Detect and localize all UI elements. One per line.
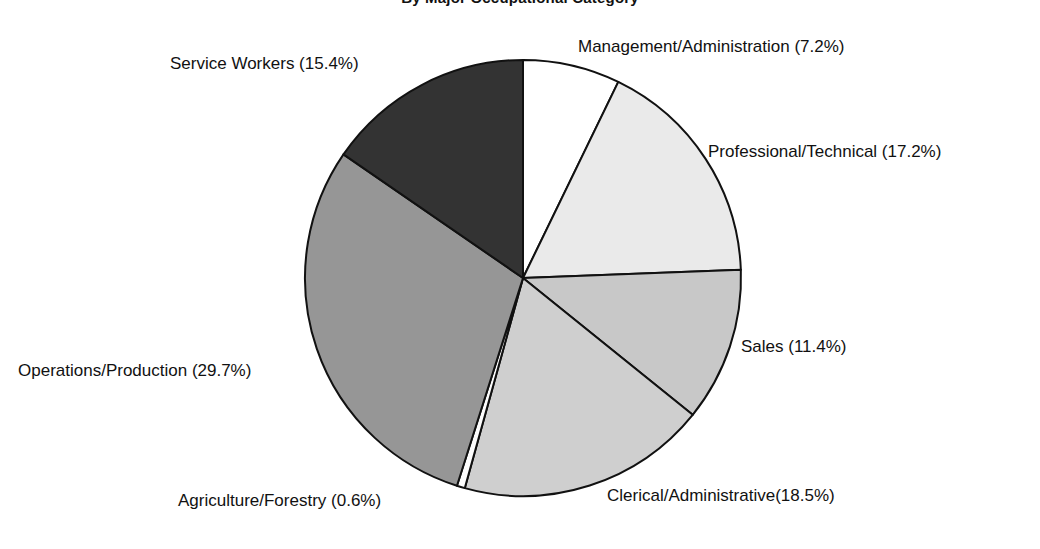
pie-chart-figure: By Major Occupational Category Managemen… xyxy=(0,0,1040,549)
pie-slice-group xyxy=(305,60,741,496)
pie-chart-svg xyxy=(0,0,1040,549)
pie-label-clerical-administrative: Clerical/Administrative(18.5%) xyxy=(607,487,835,506)
pie-label-management-administration: Management/Administration (7.2%) xyxy=(578,38,844,57)
pie-label-professional-technical: Professional/Technical (17.2%) xyxy=(708,143,941,162)
pie-label-sales: Sales (11.4%) xyxy=(741,338,847,357)
pie-label-operations-production: Operations/Production (29.7%) xyxy=(18,362,251,381)
pie-label-agriculture-forestry: Agriculture/Forestry (0.6%) xyxy=(178,492,381,511)
pie-label-service-workers: Service Workers (15.4%) xyxy=(170,55,359,74)
